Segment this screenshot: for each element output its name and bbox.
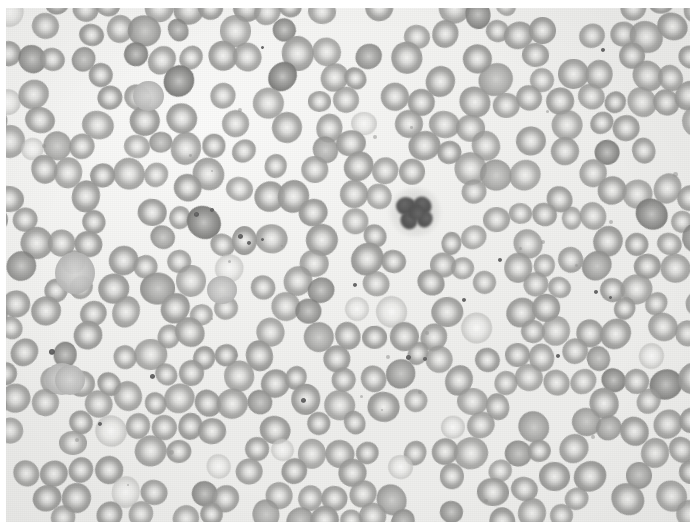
erythrocyte [41, 8, 74, 19]
erythrocyte [618, 176, 656, 214]
erythrocyte [389, 40, 425, 77]
erythrocyte [527, 438, 553, 464]
erythrocyte [322, 436, 358, 471]
erythrocyte [308, 91, 331, 112]
erythrocyte [6, 245, 42, 286]
erythrocyte [65, 405, 98, 438]
erythrocyte [6, 8, 27, 30]
erythrocyte [175, 265, 206, 298]
erythrocyte [248, 175, 290, 217]
erythrocyte [79, 385, 118, 423]
erythrocyte [143, 40, 182, 80]
erythrocyte [268, 435, 298, 464]
erythrocyte [432, 8, 476, 30]
platelet [498, 258, 502, 262]
erythrocyte [426, 433, 463, 470]
erythrocyte [126, 102, 163, 140]
erythrocyte [53, 155, 85, 190]
erythrocyte [605, 476, 651, 522]
erythrocyte [545, 132, 584, 171]
erythrocyte [279, 261, 318, 300]
erythrocyte [575, 20, 608, 52]
erythrocyte [541, 181, 578, 218]
erythrocyte [251, 498, 280, 522]
erythrocyte [190, 343, 218, 373]
erythrocyte [670, 75, 690, 116]
erythrocyte [593, 139, 621, 167]
erythrocyte [140, 272, 176, 305]
erythrocyte [450, 433, 491, 473]
erythrocyte [37, 44, 68, 74]
erythrocyte [6, 312, 27, 344]
erythrocyte [320, 484, 350, 512]
plasma-speck [673, 172, 678, 177]
plasma-speck [418, 390, 422, 394]
erythrocyte [337, 145, 379, 187]
erythrocyte [44, 225, 80, 261]
erythrocyte [165, 439, 193, 465]
erythrocyte [476, 477, 509, 507]
erythrocyte [274, 175, 314, 216]
platelet [353, 283, 357, 287]
plasma-speck [609, 220, 613, 224]
erythrocyte [610, 112, 642, 143]
erythrocyte [6, 101, 13, 139]
erythrocyte [403, 83, 441, 121]
erythrocyte [137, 198, 168, 227]
erythrocyte [298, 247, 330, 278]
erythrocyte [79, 207, 110, 238]
erythrocyte [597, 274, 629, 306]
erythrocyte [303, 220, 342, 259]
erythrocyte [6, 123, 27, 160]
erythrocyte [108, 292, 145, 332]
erythrocyte [519, 267, 552, 300]
erythrocyte [22, 103, 57, 136]
erythrocyte [630, 193, 674, 236]
erythrocyte [352, 437, 383, 468]
erythrocyte [206, 79, 240, 113]
erythrocyte [196, 499, 227, 522]
erythrocyte [254, 222, 288, 254]
erythrocyte [452, 149, 489, 188]
erythrocyte [146, 410, 181, 445]
erythrocyte [557, 333, 593, 369]
erythrocyte [648, 169, 686, 209]
erythrocyte [281, 502, 319, 522]
erythrocyte [148, 131, 173, 154]
erythrocyte [366, 389, 402, 424]
erythrocyte [334, 455, 371, 492]
platelet [462, 298, 466, 302]
erythrocyte [514, 125, 548, 158]
erythrocyte [295, 298, 322, 324]
plasma-speck [189, 154, 192, 157]
erythrocyte [620, 228, 653, 261]
leukocyte-nucleus-lobe [409, 192, 434, 217]
erythrocyte [575, 245, 617, 287]
erythrocyte [306, 31, 346, 71]
erythrocyte [633, 252, 663, 281]
platelet [150, 374, 155, 379]
erythrocyte [58, 431, 86, 455]
erythrocyte [344, 475, 382, 513]
erythrocyte [255, 364, 295, 403]
erythrocyte [686, 18, 690, 53]
erythrocyte [335, 175, 374, 214]
erythrocyte [6, 416, 26, 446]
erythrocyte [470, 343, 504, 376]
erythrocyte [194, 8, 228, 24]
plasma-speck [238, 108, 242, 112]
erythrocyte [403, 338, 432, 369]
erythrocyte [295, 194, 331, 229]
erythrocyte [680, 221, 690, 255]
plasma-speck [386, 355, 390, 359]
erythrocyte [647, 8, 674, 14]
platelet [261, 238, 264, 241]
erythrocyte [422, 520, 453, 522]
plasma-speck [541, 240, 545, 244]
erythrocyte [190, 384, 227, 421]
erythrocyte [654, 229, 685, 258]
erythrocyte [15, 221, 58, 264]
erythrocyte [340, 63, 371, 94]
leukocyte-nucleus-lobe [405, 201, 427, 222]
erythrocyte [435, 138, 464, 166]
